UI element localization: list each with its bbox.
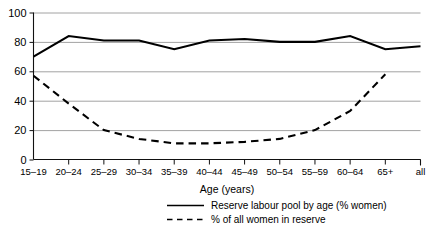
x-axis-tick-label: 45–49 [231,166,257,177]
x-axis-tick-label: 40–44 [196,166,222,177]
chart-background [0,0,433,234]
x-axis-title: Age (years) [200,183,254,195]
line-chart: 020406080100 15–1920–2425–2930–3435–3940… [0,0,433,234]
x-axis-tick-label: 30–34 [126,166,152,177]
legend-label-women-in-reserve: % of all women in reserve [211,214,326,225]
x-axis-tick-label: 25–29 [91,166,117,177]
y-axis-tick-label: 80 [14,36,26,48]
x-axis-tick-label: all [416,166,426,177]
y-axis-tick-label: 100 [8,7,26,19]
y-axis-tick-label: 0 [20,154,26,166]
x-axis-tick-label: 35–39 [161,166,187,177]
x-axis-tick-label: 55–59 [302,166,328,177]
y-axis-tick-label: 40 [14,95,26,107]
chart-figure: 020406080100 15–1920–2425–2930–3435–3940… [0,0,433,234]
x-axis-tick-label: 50–54 [267,166,293,177]
x-axis-tick-label: 15–19 [20,166,46,177]
y-axis-tick-label: 60 [14,65,26,77]
x-axis-tick-label: 65+ [377,166,394,177]
x-axis-tick-label: 60–64 [337,166,363,177]
y-axis-tick-label: 20 [14,124,26,136]
x-axis-tick-label: 20–24 [55,166,81,177]
legend-label-reserve-labour-pool: Reserve labour pool by age (% women) [211,200,387,211]
